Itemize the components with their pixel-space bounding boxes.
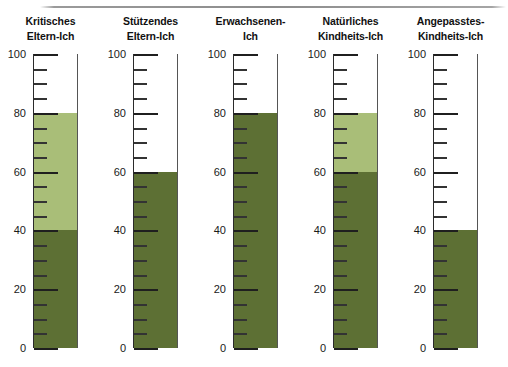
axis-tick-minor — [434, 83, 447, 85]
y-axis-tick-label: 0 — [398, 342, 426, 354]
axis-tick-minor — [334, 186, 347, 188]
y-axis-labels: 100806040200 — [300, 54, 333, 348]
axis-tick-minor — [434, 186, 447, 188]
axis-tick-major — [134, 289, 158, 291]
axis-tick-minor — [234, 304, 247, 306]
axis-tick-minor — [34, 69, 47, 71]
axis-tick-major — [134, 230, 158, 232]
axis-tick-minor — [134, 201, 147, 203]
axis-tick-minor — [334, 98, 347, 100]
y-axis-tick-label: 0 — [298, 342, 326, 354]
axis-tick-minor — [434, 216, 447, 218]
axis-tick-minor — [234, 157, 247, 159]
axis-tick-minor — [134, 186, 147, 188]
axis-tick-minor — [234, 186, 247, 188]
axis-tick-major — [34, 230, 58, 232]
y-axis-tick-label: 60 — [298, 166, 326, 178]
axis-tick-minor — [34, 319, 47, 321]
axis-tick-minor — [34, 157, 47, 159]
axis-tick-major — [234, 172, 258, 174]
gauge-column-header: NatürlichesKindheits-Ich — [300, 14, 401, 44]
axis-tick-minor — [234, 333, 247, 335]
axis-tick-minor — [434, 245, 447, 247]
y-axis-tick-label: 80 — [98, 107, 126, 119]
axis-tick-major — [434, 230, 458, 232]
axis-tick-minor — [334, 216, 347, 218]
axis-tick-major — [434, 348, 458, 350]
axis-tick-minor — [34, 98, 47, 100]
gauge-tube — [133, 54, 178, 348]
y-axis-tick-label: 40 — [298, 224, 326, 236]
y-axis-tick-label: 80 — [0, 107, 26, 119]
y-axis-tick-label: 20 — [398, 283, 426, 295]
axis-tick-minor — [334, 260, 347, 262]
axis-tick-minor — [134, 69, 147, 71]
gauge-tube-right-border — [77, 54, 78, 348]
axis-tick-minor — [234, 319, 247, 321]
axis-tick-minor — [134, 245, 147, 247]
axis-tick-minor — [434, 201, 447, 203]
y-axis-line — [333, 54, 334, 348]
gauge-column-header: StützendesEltern-Ich — [100, 14, 201, 44]
y-axis-line — [433, 54, 434, 348]
gauge-tube-right-border — [277, 54, 278, 348]
axis-tick-minor — [434, 333, 447, 335]
y-axis-tick-label: 20 — [98, 283, 126, 295]
y-axis-labels: 100806040200 — [0, 54, 33, 348]
axis-tick-major — [434, 54, 458, 56]
axis-tick-minor — [334, 83, 347, 85]
axis-tick-minor — [234, 245, 247, 247]
axis-tick-minor — [134, 333, 147, 335]
gauge-column: NatürlichesKindheits-Ich100806040200 — [300, 0, 401, 367]
gauge-column-header-line2: Kindheits-Ich — [300, 29, 401, 44]
axis-tick-major — [134, 172, 158, 174]
gauge-tube-right-border — [377, 54, 378, 348]
axis-tick-minor — [134, 260, 147, 262]
y-axis-tick-label: 100 — [198, 48, 226, 60]
axis-tick-minor — [34, 304, 47, 306]
y-axis-tick-label: 40 — [98, 224, 126, 236]
axis-tick-minor — [134, 98, 147, 100]
axis-tick-minor — [134, 304, 147, 306]
axis-tick-major — [334, 113, 358, 115]
gauge-column: Angepasstes-Kindheits-Ich100806040200 — [400, 0, 501, 367]
y-axis-line — [33, 54, 34, 348]
axis-tick-minor — [34, 216, 47, 218]
y-axis-tick-label: 100 — [0, 48, 26, 60]
axis-tick-major — [34, 172, 58, 174]
gauge-column: StützendesEltern-Ich100806040200 — [100, 0, 201, 367]
axis-tick-minor — [334, 157, 347, 159]
gauge-chart: KritischesEltern-Ich100806040200Stützend… — [0, 0, 508, 367]
gauge-tube — [433, 54, 478, 348]
gauge-column-header-line1: Kritisches — [26, 15, 76, 27]
gauge-column: KritischesEltern-Ich100806040200 — [0, 0, 101, 367]
gauge-column-list: KritischesEltern-Ich100806040200Stützend… — [0, 0, 508, 367]
axis-tick-minor — [234, 83, 247, 85]
y-axis-tick-label: 20 — [0, 283, 26, 295]
y-axis-tick-label: 60 — [198, 166, 226, 178]
axis-tick-major — [234, 230, 258, 232]
axis-tick-minor — [134, 128, 147, 130]
axis-tick-major — [334, 172, 358, 174]
y-axis-line — [233, 54, 234, 348]
axis-tick-major — [234, 289, 258, 291]
gauge-tube — [233, 54, 278, 348]
axis-tick-minor — [434, 98, 447, 100]
y-axis-tick-label: 100 — [398, 48, 426, 60]
axis-tick-minor — [434, 157, 447, 159]
axis-tick-minor — [334, 319, 347, 321]
axis-tick-minor — [34, 275, 47, 277]
gauge-tube — [333, 54, 378, 348]
axis-tick-minor — [334, 201, 347, 203]
axis-tick-minor — [234, 128, 247, 130]
gauge-column-header-line1: Natürliches — [322, 15, 378, 27]
gauge-tube — [33, 54, 78, 348]
y-axis-tick-label: 80 — [198, 107, 226, 119]
axis-tick-minor — [234, 275, 247, 277]
axis-tick-minor — [434, 260, 447, 262]
gauge-column-header-line2: Eltern-Ich — [100, 29, 201, 44]
axis-tick-major — [34, 113, 58, 115]
y-axis-line — [133, 54, 134, 348]
axis-tick-minor — [434, 69, 447, 71]
axis-tick-major — [234, 54, 258, 56]
